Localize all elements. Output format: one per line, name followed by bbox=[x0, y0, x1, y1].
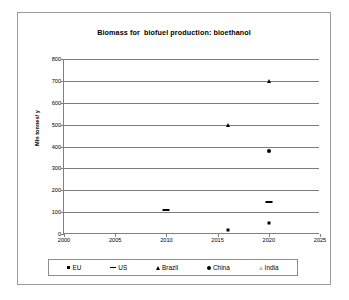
x-tick-label: 2025 bbox=[314, 237, 326, 243]
legend-item-india[interactable]: India bbox=[259, 264, 279, 271]
triangle-icon bbox=[156, 266, 160, 270]
y-tick-label: 700 bbox=[52, 78, 61, 84]
plot-area: 0100200300400500600700800 20002005201020… bbox=[63, 59, 319, 234]
y-tick-label: 100 bbox=[52, 209, 61, 215]
data-point-eu bbox=[226, 228, 229, 231]
y-tick-label: 800 bbox=[52, 56, 61, 62]
legend-label: US bbox=[118, 264, 127, 271]
x-tick-label: 2020 bbox=[263, 237, 275, 243]
y-tick-mark bbox=[61, 190, 64, 191]
legend-item-china[interactable]: China bbox=[207, 264, 230, 271]
x-tick-label: 2015 bbox=[211, 237, 223, 243]
x-tick-label: 2005 bbox=[109, 237, 121, 243]
legend-label: India bbox=[265, 264, 279, 271]
chart-title: Biomass for biofuel production: bioethan… bbox=[18, 28, 330, 37]
y-tick-label: 400 bbox=[52, 144, 61, 150]
legend-item-eu[interactable]: EU bbox=[67, 264, 81, 271]
square-icon bbox=[67, 266, 70, 269]
y-tick-mark bbox=[61, 81, 64, 82]
data-point-us bbox=[265, 201, 272, 203]
gridline bbox=[64, 147, 319, 148]
y-tick-mark bbox=[61, 103, 64, 104]
gridline bbox=[64, 190, 319, 191]
chart-legend: EUUSBrazilChinaIndia bbox=[48, 259, 298, 276]
triangle-light-icon bbox=[259, 266, 263, 270]
y-axis-label: Mln tonnes/ y bbox=[34, 110, 40, 146]
circle-icon bbox=[207, 266, 211, 270]
data-point-china bbox=[267, 149, 271, 153]
y-tick-mark bbox=[61, 168, 64, 169]
y-tick-mark bbox=[61, 59, 64, 60]
legend-label: Brazil bbox=[162, 264, 178, 271]
y-tick-mark bbox=[61, 212, 64, 213]
data-point-us bbox=[163, 209, 170, 211]
x-tick-label: 2000 bbox=[58, 237, 70, 243]
gridline bbox=[64, 103, 319, 104]
legend-item-brazil[interactable]: Brazil bbox=[156, 264, 178, 271]
gridline bbox=[64, 81, 319, 82]
legend-item-us[interactable]: US bbox=[110, 264, 127, 271]
gridline bbox=[64, 59, 319, 60]
y-tick-label: 300 bbox=[52, 165, 61, 171]
y-tick-label: 600 bbox=[52, 100, 61, 106]
legend-label: China bbox=[213, 264, 230, 271]
gridline bbox=[64, 125, 319, 126]
chart-container: Biomass for biofuel production: bioethan… bbox=[17, 12, 331, 285]
y-tick-mark bbox=[61, 147, 64, 148]
y-tick-label: 200 bbox=[52, 187, 61, 193]
x-tick-label: 2010 bbox=[160, 237, 172, 243]
data-point-brazil bbox=[226, 123, 230, 127]
gridline bbox=[64, 212, 319, 213]
gridline bbox=[64, 168, 319, 169]
data-point-eu bbox=[267, 222, 270, 225]
y-tick-mark bbox=[61, 125, 64, 126]
data-point-brazil bbox=[267, 79, 271, 83]
y-tick-label: 500 bbox=[52, 122, 61, 128]
x-axis-line bbox=[64, 233, 319, 234]
dash-icon bbox=[110, 267, 116, 269]
legend-label: EU bbox=[72, 264, 81, 271]
